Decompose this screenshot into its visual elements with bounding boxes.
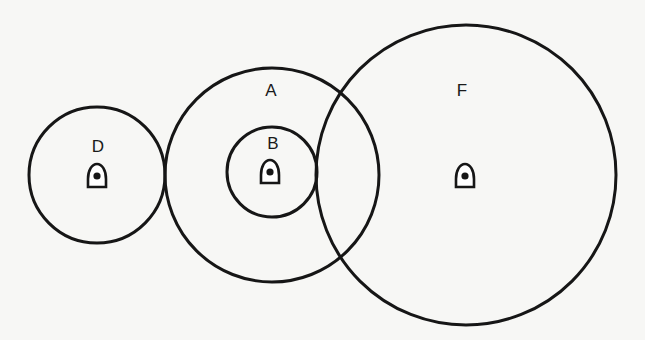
label-f: F — [457, 81, 467, 100]
circle-F: F — [316, 25, 616, 325]
transmitter-icon — [88, 164, 106, 187]
transmitter-icon — [456, 164, 474, 187]
circle-D: D — [29, 107, 165, 243]
label-a: A — [265, 81, 277, 100]
circle-B: B — [227, 127, 317, 217]
transmitter-icon — [261, 160, 279, 183]
label-b: B — [267, 134, 278, 153]
label-d: D — [92, 137, 104, 156]
diagram-canvas: D A B F — [0, 0, 645, 340]
